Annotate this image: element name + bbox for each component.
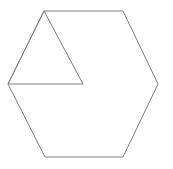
figure-canvas xyxy=(0,0,173,169)
triangle-shape xyxy=(8,11,83,84)
geometric-figure-svg xyxy=(0,0,173,169)
